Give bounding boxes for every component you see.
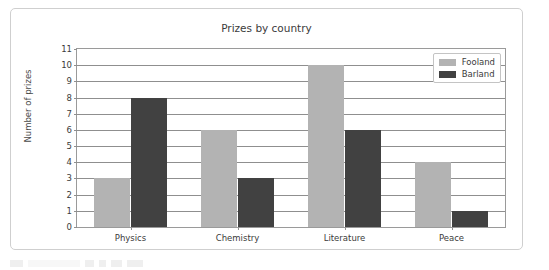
x-tick-label-chemistry: Chemistry [216, 233, 259, 243]
x-tick-mark [345, 227, 346, 230]
strip-mark [127, 260, 143, 267]
y-tick-label: 5 [67, 141, 72, 151]
bar-chemistry-barland [238, 178, 274, 227]
chart-legend: FoolandBarland [433, 53, 501, 83]
strip-mark [10, 260, 23, 267]
x-tick-label-physics: Physics [115, 233, 146, 243]
bar-literature-barland [345, 130, 381, 227]
y-tick-label: 11 [61, 44, 72, 54]
strip-mark [28, 260, 80, 267]
legend-swatch-barland [439, 71, 456, 78]
x-tick-mark [452, 227, 453, 230]
y-axis-label: Number of prizes [23, 46, 33, 166]
y-tick-label: 7 [67, 109, 72, 119]
y-tick-label: 6 [67, 125, 72, 135]
y-tick-label: 1 [67, 206, 72, 216]
x-tick-label-peace: Peace [439, 233, 464, 243]
strip-mark [111, 260, 122, 267]
y-tick-label: 0 [67, 222, 72, 232]
legend-item-barland[interactable]: Barland [439, 69, 495, 79]
x-tick-mark [131, 227, 132, 230]
y-tick-label: 8 [67, 93, 72, 103]
y-tick-mark [74, 227, 77, 228]
strip-mark [85, 260, 94, 267]
y-tick-label: 10 [61, 60, 72, 70]
y-tick-label: 9 [67, 76, 72, 86]
chart-title: Prizes by country [11, 22, 522, 34]
bar-peace-barland [452, 211, 488, 227]
y-tick-label: 4 [67, 157, 72, 167]
bar-physics-fooland [94, 178, 130, 227]
legend-swatch-fooland [439, 59, 456, 66]
x-tick-mark [238, 227, 239, 230]
legend-label-barland: Barland [462, 69, 495, 79]
legend-label-fooland: Fooland [462, 57, 495, 67]
bar-chemistry-fooland [201, 130, 237, 227]
legend-item-fooland[interactable]: Fooland [439, 57, 495, 67]
cutoff-toolbar-strip [10, 258, 230, 268]
y-tick-label: 3 [67, 173, 72, 183]
bar-literature-fooland [308, 65, 344, 227]
bar-physics-barland [131, 98, 167, 227]
y-tick-label: 2 [67, 190, 72, 200]
strip-mark [99, 260, 106, 267]
chart-card: Prizes by country Number of prizes 01234… [10, 8, 523, 250]
plot-area: 01234567891011 PhysicsChemistryLiteratur… [76, 48, 506, 228]
x-tick-label-literature: Literature [324, 233, 366, 243]
bar-peace-fooland [415, 162, 451, 227]
